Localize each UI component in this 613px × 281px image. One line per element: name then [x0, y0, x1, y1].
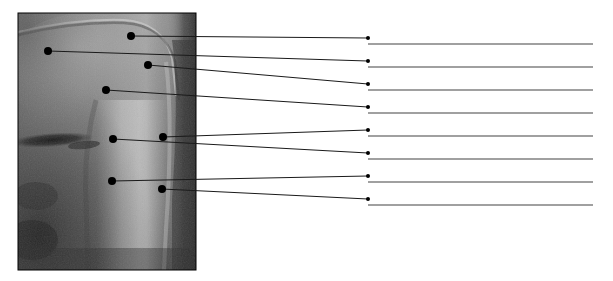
answer-anchor-dot-5: [366, 128, 370, 132]
answer-anchor-dot-4: [366, 105, 370, 109]
marker-dot-2[interactable]: [44, 47, 52, 55]
answer-anchor-dot-2: [366, 59, 370, 63]
marker-dot-5[interactable]: [159, 133, 167, 141]
marker-dot-4[interactable]: [102, 86, 110, 94]
answer-anchor-dot-6: [366, 151, 370, 155]
answer-lines-group: [368, 44, 593, 205]
marker-dot-1[interactable]: [127, 32, 135, 40]
radiograph-photo-group: [4, 12, 196, 270]
answer-anchor-dot-7: [366, 174, 370, 178]
anatomy-labeling-figure: [0, 0, 613, 281]
answer-anchor-dot-1: [366, 36, 370, 40]
answer-anchor-dot-3: [366, 82, 370, 86]
marker-dot-8[interactable]: [158, 185, 166, 193]
figure-canvas: [0, 0, 613, 281]
marker-dot-3[interactable]: [144, 61, 152, 69]
marker-dot-7[interactable]: [108, 177, 116, 185]
marker-dot-6[interactable]: [109, 135, 117, 143]
answer-anchor-dot-8: [366, 197, 370, 201]
